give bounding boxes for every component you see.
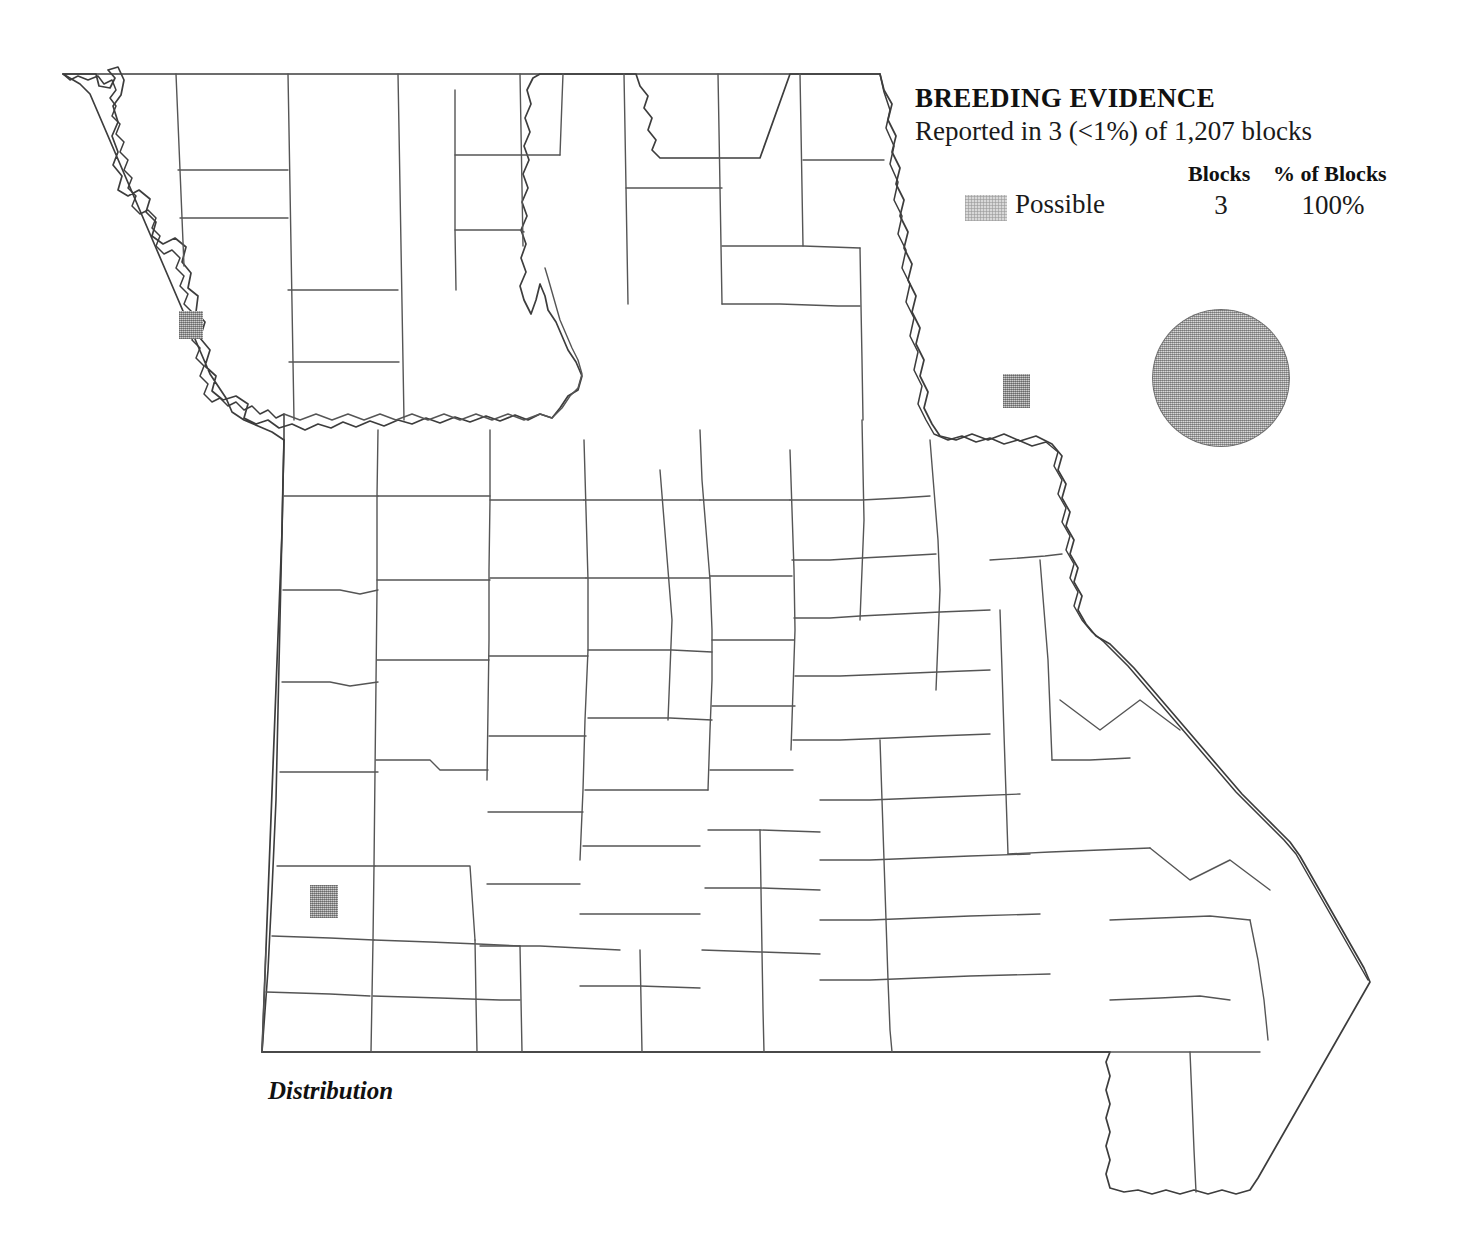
legend-subtitle: Reported in 3 (<1%) of 1,207 blocks <box>915 115 1435 149</box>
possible-swatch <box>965 195 1007 221</box>
map-counties <box>63 67 1370 1194</box>
column-header-percent-of-blocks: % of Blocks <box>1273 161 1387 187</box>
legend-label-possible: Possible <box>1015 189 1105 220</box>
state-outline <box>63 67 1370 1194</box>
bootheel-line-3 <box>1190 1052 1196 1192</box>
column-header-blocks: Blocks <box>1188 161 1250 187</box>
county-line-h10 <box>722 246 860 248</box>
county-line-c5-h7 <box>705 888 820 890</box>
county-line-e1-h7 <box>820 854 1030 860</box>
county-line-e1-h6 <box>820 794 1020 800</box>
page-root: BREEDING EVIDENCE Reported in 3 (<1%) of… <box>0 0 1482 1246</box>
breeding-evidence-legend: BREEDING EVIDENCE Reported in 3 (<1%) of… <box>915 84 1435 225</box>
county-line-e4-v <box>1000 610 1008 854</box>
block-marker-southwest <box>310 885 338 918</box>
county-line-c5-h6 <box>708 830 820 832</box>
county-line-e3-v <box>880 740 892 1052</box>
county-line-n4 <box>520 74 523 246</box>
county-line-c4-v <box>660 470 672 720</box>
county-line-c4-v2 <box>700 430 712 790</box>
county-line-c3-v <box>580 440 588 860</box>
county-line-n3 <box>398 74 404 420</box>
legend-title: BREEDING EVIDENCE <box>915 84 1435 112</box>
missouri-river-northwest <box>63 74 284 440</box>
distribution-caption: Distribution <box>268 1077 393 1105</box>
county-line-c2-h5 <box>375 866 475 940</box>
county-line-w7 <box>266 992 370 996</box>
legend-header-row: Blocks % of Blocks <box>915 161 1425 189</box>
county-line-c2-h4 <box>376 760 488 770</box>
legend-value-blocks-possible: 3 <box>1188 190 1254 221</box>
county-line-e1-h4 <box>795 670 990 676</box>
bootheel-line-6 <box>1150 848 1270 890</box>
county-line-e8 <box>1060 700 1180 730</box>
county-line-sw4 <box>520 946 522 1052</box>
county-line-e5-v <box>1040 560 1052 760</box>
bootheel-line-2 <box>1110 996 1230 1000</box>
county-line-e1-h2 <box>792 554 936 560</box>
county-line-c5-v <box>790 450 795 750</box>
county-line-c5-v2 <box>760 830 764 1052</box>
county-line-c5-h8 <box>702 950 820 954</box>
county-line-w2 <box>283 590 378 594</box>
county-line-n5 <box>624 74 628 304</box>
county-line-w6 <box>272 936 374 940</box>
county-line-e6-h <box>1052 758 1130 760</box>
county-line-e2-v <box>930 440 940 690</box>
county-line-c4-v3 <box>640 950 642 1052</box>
county-line-e1-h3 <box>794 610 990 618</box>
county-line-c2-h7 <box>373 996 520 1000</box>
county-line-n6 <box>718 74 722 304</box>
county-line-c2-v <box>487 430 490 780</box>
county-line-w-vert <box>371 430 378 1052</box>
bootheel-line-1 <box>1110 916 1250 920</box>
missouri-river-central <box>284 268 582 420</box>
county-line-c3-h7 <box>480 946 620 950</box>
bootheel-line-5 <box>1250 920 1268 1040</box>
county-line-e1-h9 <box>820 974 1050 980</box>
county-line-e5-h <box>990 554 1062 560</box>
county-line-h8 <box>560 74 563 155</box>
legend-value-percent-possible: 100% <box>1273 190 1393 221</box>
county-line-w3 <box>282 682 378 686</box>
county-line-n2 <box>288 74 294 420</box>
county-line-h13 <box>860 248 863 420</box>
county-line-e7 <box>1008 848 1150 854</box>
county-line-h12 <box>722 304 860 306</box>
legend-table: Blocks % of Blocks Possible 3 100% <box>915 161 1425 225</box>
county-line-e1-h8 <box>820 914 1040 920</box>
county-line-e1-h1 <box>790 496 930 500</box>
county-line-h7 <box>455 230 524 232</box>
block-marker-northwest <box>179 311 203 339</box>
county-line-c4-h4 <box>588 718 712 720</box>
legend-row-possible: Possible 3 100% <box>915 189 1425 225</box>
county-line-h5 <box>455 90 456 290</box>
county-line-c4-h8 <box>580 986 700 988</box>
county-line-e1-h5 <box>793 734 990 740</box>
block-marker-northeast <box>1003 374 1030 408</box>
range-circle <box>1152 309 1290 447</box>
county-line-e1-v <box>860 420 864 620</box>
county-line-c4-h3 <box>588 650 712 652</box>
county-line-c2-h6 <box>374 940 520 946</box>
county-line-sw3 <box>475 940 477 1052</box>
